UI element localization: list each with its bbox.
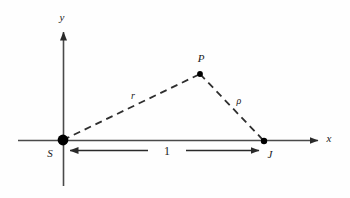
point-label-S: S bbox=[47, 147, 53, 159]
geometry-figure: x y S P J r ρ 1 bbox=[0, 0, 350, 198]
segment-S-to-P bbox=[63, 74, 200, 140]
segment-label-r: r bbox=[131, 90, 135, 101]
x-axis-label: x bbox=[326, 132, 332, 144]
y-axis-label: y bbox=[59, 11, 65, 23]
point-marker-P bbox=[197, 71, 203, 77]
point-marker-J bbox=[261, 138, 267, 144]
measure-label-one: 1 bbox=[164, 144, 170, 158]
segment-P-to-J bbox=[200, 74, 264, 141]
point-label-P: P bbox=[197, 52, 205, 64]
point-marker-S bbox=[58, 135, 69, 146]
segment-label-rho: ρ bbox=[236, 95, 242, 106]
point-label-J: J bbox=[268, 148, 274, 160]
diagram-canvas: x y S P J r ρ 1 bbox=[0, 0, 350, 198]
